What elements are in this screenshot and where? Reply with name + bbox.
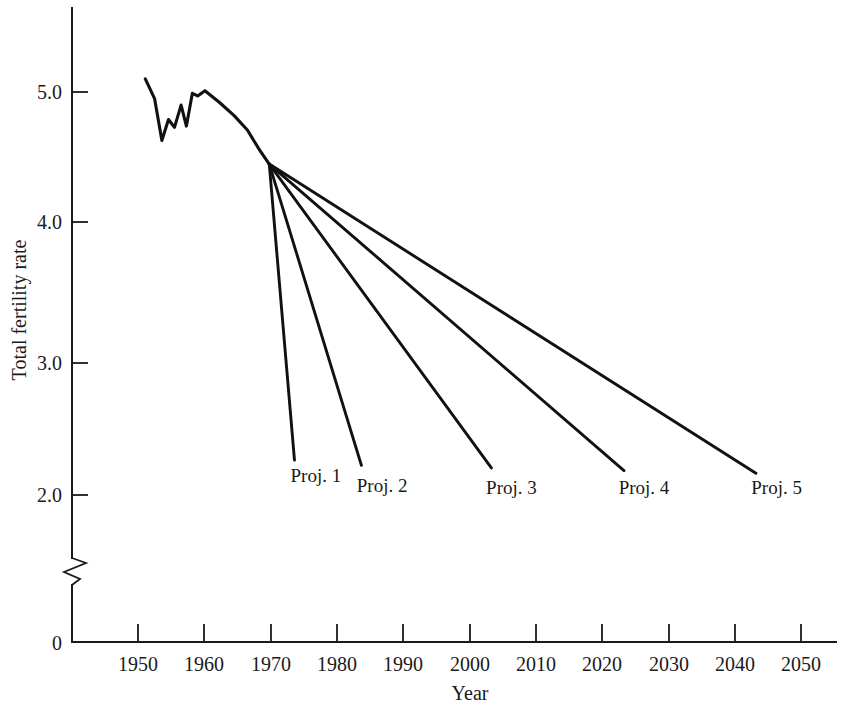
series-label-proj-1: Proj. 1: [290, 465, 341, 486]
x-tick-label-2030: 2030: [649, 653, 689, 675]
y-tick-label-0: 0: [52, 632, 62, 654]
data-series-layer: [145, 79, 756, 473]
series-label-proj-4: Proj. 4: [619, 477, 670, 498]
y-tick-label-4-0: 4.0: [37, 211, 62, 233]
y-axis-tick-labels: 5.0 4.0 3.0 2.0 0: [37, 81, 62, 654]
x-tick-label-1980: 1980: [317, 653, 357, 675]
projection-line-3: [269, 164, 491, 468]
y-tick-label-2-0: 2.0: [37, 484, 62, 506]
y-tick-label-5-0: 5.0: [37, 81, 62, 103]
y-axis-break-zigzag: [64, 558, 86, 585]
chart-canvas: 5.0 4.0 3.0 2.0 0 1950 1960 1970 19: [0, 0, 860, 712]
projection-line-4: [269, 164, 624, 471]
x-tick-label-2050: 2050: [781, 653, 821, 675]
series-label-proj-5: Proj. 5: [751, 477, 802, 498]
x-tick-label-2000: 2000: [450, 653, 490, 675]
fertility-rate-chart-figure: 5.0 4.0 3.0 2.0 0 1950 1960 1970 19: [0, 0, 860, 712]
x-tick-label-2040: 2040: [715, 653, 755, 675]
x-tick-label-1950: 1950: [118, 653, 158, 675]
x-axis-tick-labels: 1950 1960 1970 1980 1990 2000 2010 2020 …: [118, 653, 821, 675]
historical-series-line: [145, 79, 269, 164]
y-axis-ticks: [72, 92, 88, 495]
projection-line-5: [269, 164, 756, 473]
series-annotation-layer: Proj. 1Proj. 2Proj. 3Proj. 4Proj. 5: [290, 465, 801, 498]
y-axis-group: [64, 8, 86, 642]
x-tick-label-2020: 2020: [582, 653, 622, 675]
y-tick-label-3-0: 3.0: [37, 352, 62, 374]
x-axis-title: Year: [452, 682, 489, 704]
x-axis-ticks: [138, 624, 801, 642]
y-axis-title: Total fertility rate: [8, 239, 31, 380]
x-tick-label-1960: 1960: [184, 653, 224, 675]
series-label-proj-2: Proj. 2: [357, 475, 408, 496]
x-tick-label-2010: 2010: [516, 653, 556, 675]
x-tick-label-1970: 1970: [251, 653, 291, 675]
series-label-proj-3: Proj. 3: [486, 477, 537, 498]
x-tick-label-1990: 1990: [383, 653, 423, 675]
